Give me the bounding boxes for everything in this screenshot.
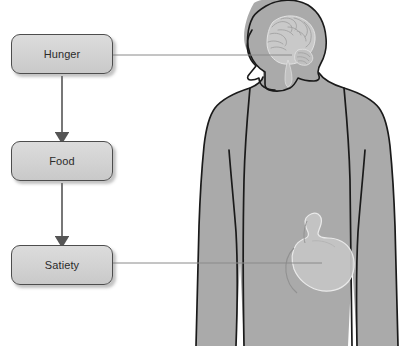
flow-box-satiety-label: Satiety [45,259,79,271]
flow-box-food[interactable]: Food [11,141,113,181]
flow-box-hunger[interactable]: Hunger [11,34,113,74]
flow-box-satiety[interactable]: Satiety [11,245,113,285]
flow-box-food-label: Food [49,155,74,167]
flow-box-hunger-label: Hunger [44,48,81,60]
diagram-canvas: Hunger Food Satiety [0,0,411,346]
